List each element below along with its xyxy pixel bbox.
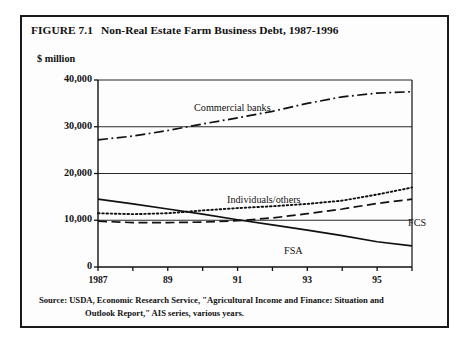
x-tick-label: 89 — [146, 274, 190, 285]
x-tick-label: 91 — [216, 274, 260, 285]
source-line-2: Outlook Report," AIS series, various yea… — [85, 307, 439, 320]
source-note: Source: USDA, Economic Research Service,… — [39, 294, 439, 321]
x-tick-label: 95 — [355, 274, 399, 285]
x-tick-label: 93 — [285, 274, 329, 285]
y-tick-label: 30,000 — [38, 120, 92, 131]
y-tick-label: 40,000 — [38, 73, 92, 84]
y-tick-label: 0 — [38, 260, 92, 271]
series-label-commercial-banks: Commercial banks — [194, 102, 271, 113]
y-tick-label: 10,000 — [38, 213, 92, 224]
source-line-1: Source: USDA, Economic Research Service,… — [39, 295, 384, 305]
series-line-commercial-banks — [98, 92, 412, 140]
series-label-fsa: FSA — [284, 245, 303, 256]
chart-plot-area: 010,00020,00030,00040,000198789919395Com… — [22, 17, 451, 330]
series-label-individuals-others: Individuals/others — [227, 194, 301, 205]
figure-frame: FIGURE 7.1Non-Real Estate Farm Business … — [20, 15, 449, 328]
x-tick-label: 1987 — [76, 274, 120, 285]
y-tick-label: 20,000 — [38, 167, 92, 178]
series-label-fcs: FCS — [408, 217, 426, 228]
